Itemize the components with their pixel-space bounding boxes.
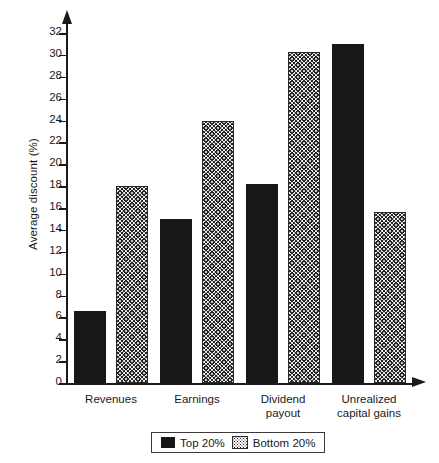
y-tick-label: 8 <box>38 288 62 300</box>
legend-label-bottom: Bottom 20% <box>253 437 316 449</box>
y-tick-label: 4 <box>38 331 62 343</box>
y-tick-label: 20 <box>38 156 62 168</box>
chart-legend: Top 20% Bottom 20% <box>151 432 325 453</box>
y-tick-label: 14 <box>38 222 62 234</box>
y-tick-label: 12 <box>38 244 62 256</box>
y-tick-label: 18 <box>38 178 62 190</box>
legend-entry-bottom: Bottom 20% <box>232 436 316 449</box>
bar <box>374 212 406 383</box>
y-tick-label: 2 <box>38 353 62 365</box>
legend-swatch-stipple-icon <box>232 436 248 449</box>
bar <box>246 184 278 383</box>
y-tick-label: 32 <box>38 25 62 37</box>
x-axis-line <box>66 383 414 385</box>
y-axis-arrow-icon <box>62 10 72 24</box>
bar <box>74 311 106 383</box>
y-tick-label: 16 <box>38 200 62 212</box>
bar <box>160 219 192 383</box>
bar <box>332 44 364 383</box>
y-tick-label: 26 <box>38 91 62 103</box>
y-axis-label: Average discount (%) <box>27 104 39 284</box>
bar <box>202 121 234 384</box>
y-tick-label: 6 <box>38 309 62 321</box>
bar <box>288 52 320 383</box>
y-tick-label: 0 <box>38 375 62 387</box>
y-tick-label: 30 <box>38 47 62 59</box>
y-axis-line <box>66 21 68 384</box>
legend-swatch-solid-icon <box>161 437 175 448</box>
x-axis-arrow-icon <box>412 377 426 387</box>
y-tick-label: 24 <box>38 113 62 125</box>
plot-area: 02468101214161820222426283032 RevenuesEa… <box>66 12 430 384</box>
legend-entry-top: Top 20% <box>161 437 225 449</box>
x-axis-category-label: Unrealized capital gains <box>318 392 420 420</box>
y-tick-label: 10 <box>38 266 62 278</box>
y-tick-label: 22 <box>38 134 62 146</box>
bar <box>116 186 148 383</box>
legend-label-top: Top 20% <box>180 437 225 449</box>
chart-figure: Average discount (%) 0246810121416182022… <box>0 0 439 463</box>
y-tick-label: 28 <box>38 69 62 81</box>
